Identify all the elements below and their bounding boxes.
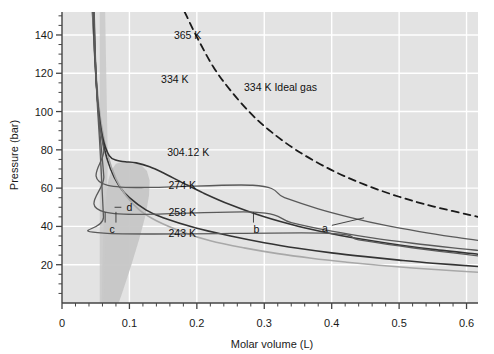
curve-label-243-k: 243 K (169, 227, 196, 239)
x-tick-label: 0.4 (324, 317, 339, 329)
y-tick-label: 120 (35, 67, 53, 79)
y-tick-label: 20 (41, 259, 53, 271)
pv-isotherm-chart: abcd 2040608010012014000.10.20.30.40.50.… (0, 0, 494, 354)
y-tick-label: 140 (35, 29, 53, 41)
y-tick-label: 40 (41, 220, 53, 232)
x-tick-label: 0.2 (189, 317, 204, 329)
y-axis-title: Pressure (bar) (8, 120, 20, 190)
x-tick-label: 0.5 (391, 317, 406, 329)
curve-label-334-k: 334 K (161, 73, 188, 85)
x-tick-label: 0.1 (122, 317, 137, 329)
curve-label-304-12-k: 304.12 K (167, 146, 209, 158)
annotation-label-b: b (253, 223, 259, 235)
x-axis-title: Molar volume (L) (231, 338, 314, 350)
curve-label-334-k-ideal-gas: 334 K Ideal gas (244, 81, 317, 93)
curve-label-274-k: 274 K (169, 179, 196, 191)
x-tick-label: 0 (59, 317, 65, 329)
annotation-label-c: c (110, 223, 115, 235)
y-tick-label: 60 (41, 182, 53, 194)
annotation-label-d: d (126, 201, 132, 213)
x-tick-label: 0.3 (257, 317, 272, 329)
x-tick-label: 0.6 (459, 317, 474, 329)
y-tick-label: 80 (41, 144, 53, 156)
curve-label-258-k: 258 K (169, 206, 196, 218)
chart-svg: abcd 2040608010012014000.10.20.30.40.50.… (0, 0, 494, 354)
annotation-label-a: a (322, 222, 328, 234)
y-tick-label: 100 (35, 106, 53, 118)
curve-label-365-k: 365 K (174, 29, 201, 41)
